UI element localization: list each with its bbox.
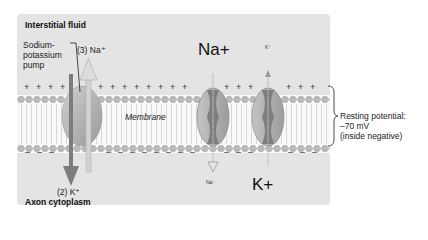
k-channel-top-label: K⁺	[265, 44, 271, 50]
k-in-label: (2) K⁺	[57, 187, 80, 197]
pump-label-line: pump	[23, 60, 62, 70]
resting-potential-annotation: Resting potential: –70 mV (inside negati…	[340, 111, 406, 141]
annotation-line: –70 mV	[340, 121, 406, 131]
annotation-line: (inside negative)	[340, 131, 406, 141]
na-out-label: (3) Na⁺	[77, 45, 106, 55]
pump-label-line: potassium	[23, 50, 62, 60]
na-channel-bottom-label: Na⁺	[206, 179, 215, 185]
na-channel-top-label: Na+	[198, 40, 230, 60]
k-channel-bottom-label: K+	[252, 175, 273, 195]
pump-label: Sodium- potassium pump	[23, 40, 62, 70]
annotation-line: Resting potential:	[340, 111, 406, 121]
pump-label-line: Sodium-	[23, 40, 62, 50]
